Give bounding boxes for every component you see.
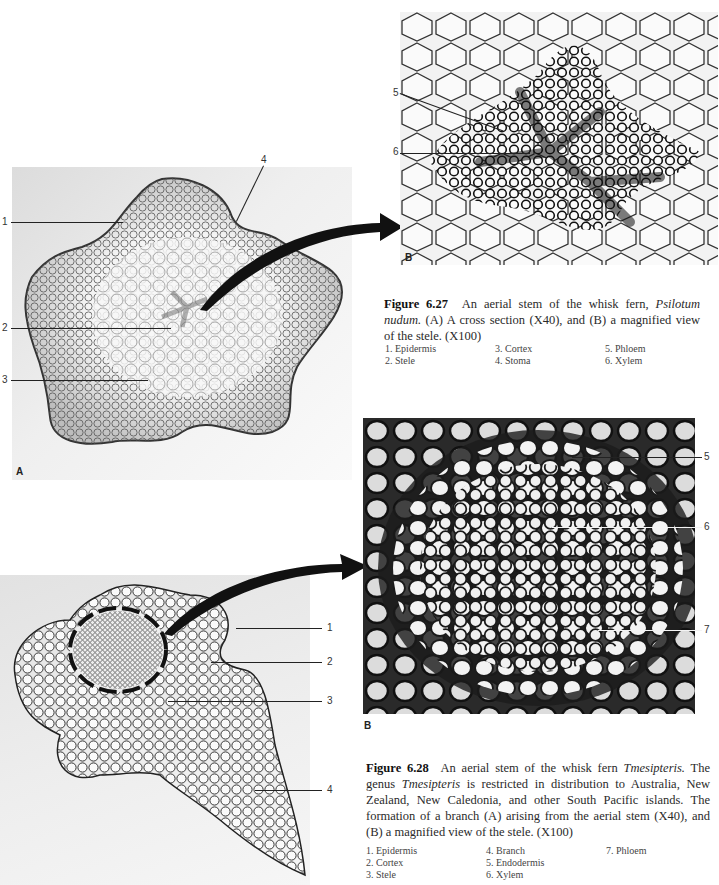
fig627-legend-item: 5. Phloem [605,343,695,355]
fig628-a-label-3: 3 [327,695,333,706]
fig627-legend: 1. Epidermis 2. Stele 3. Cortex 4. Stoma… [385,343,685,367]
fig627-a-label-1: 1 [2,216,8,227]
fig628-a-leader-1 [236,628,322,629]
fig627-legend-item: 6. Xylem [605,355,695,367]
fig628-a-label-2: 2 [327,656,333,667]
fig628-caption-number: Figure 6.28 [366,761,429,775]
fig628-a-label-4: 4 [327,784,333,795]
stele-endodermis-illustration [363,418,695,714]
fig628-legend-item: 4. Branch [486,845,586,857]
fig627-legend-item: 3. Cortex [495,343,585,355]
fig628-caption-genus-2: Tmesipteris [402,777,460,791]
fig628-b-leader-5 [572,457,702,458]
fig628-caption: Figure 6.28 An aerial stem of the whisk … [366,760,710,840]
fig628-legend-item: 2. Cortex [366,857,466,869]
fig627-caption-number: Figure 6.27 [384,297,448,311]
fig627-a-label-3: 3 [2,374,8,385]
fig628-legend-item: 5. Endodermis [486,857,586,869]
fig627-a-leader-3 [11,380,148,381]
fig627-legend-item: 2. Stele [385,355,475,367]
fig628-legend: 1. Epidermis 2. Cortex 3. Stele 4. Branc… [366,845,706,881]
fig627-caption: Figure 6.27 An aerial stem of the whisk … [384,296,700,344]
fig628-legend-item: 7. Phloem [606,845,706,857]
fig627-caption-text-2: (A) A cross section (X40), and (B) a mag… [384,313,700,343]
fig628-panel-b-letter: B [364,720,371,731]
fig627-panel-b-micrograph [400,12,718,265]
fig627-a-leader-1 [11,222,123,223]
fig627-a-leader-2 [11,328,171,329]
fig627-a-label-2: 2 [2,322,8,333]
connector-arrow-icon [195,205,405,315]
fig628-b-leader-7 [598,630,702,631]
fig628-a-label-1: 1 [327,622,333,633]
fig628-b-leader-6 [552,527,702,528]
fig627-a-label-4: 4 [261,154,267,165]
fig628-legend-item: 3. Stele [366,869,466,881]
fig628-b-label-5: 5 [704,451,710,462]
stele-magnified-illustration [400,12,718,265]
fig628-legend-item: 1. Epidermis [366,845,466,857]
fig627-b-leader-6 [400,153,530,154]
fig627-b-label-5: 5 [393,87,399,98]
fig628-a-leader-3 [168,701,322,702]
fig628-panel-b-micrograph [363,418,695,714]
fig627-caption-text-1: An aerial stem of the whisk fern, [462,297,656,311]
fig628-legend-item: 6. Xylem [486,869,586,881]
fig628-a-leader-2 [211,662,322,663]
fig628-b-label-7: 7 [704,624,710,635]
fig628-b-label-6: 6 [704,521,710,532]
fig627-legend-item: 4. Stoma [495,355,585,367]
fig627-panel-b-letter: B [405,252,412,263]
fig627-panel-a-letter: A [16,466,23,477]
fig628-caption-genus-1: Tmesipteris. [624,761,685,775]
fig627-legend-item: 1. Epidermis [385,343,475,355]
connector-arrow-icon [160,552,370,637]
fig628-caption-text-1: An aerial stem of the whisk fern [441,761,624,775]
fig627-b-label-6: 6 [393,146,399,157]
fig628-a-leader-4 [255,790,322,791]
